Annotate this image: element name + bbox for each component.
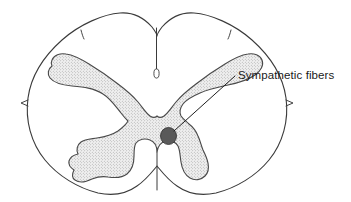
figure-canvas: Sympathetic fibers — [0, 0, 351, 202]
sympathetic-fibers-marker — [161, 128, 177, 145]
spinal-cord-diagram — [0, 0, 351, 202]
sympathetic-fibers-label: Sympathetic fibers — [238, 70, 334, 82]
central-canal-loop — [154, 69, 159, 78]
